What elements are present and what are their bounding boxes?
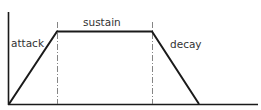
attack-label: attack — [11, 37, 45, 49]
envelope-diagram: attack sustain decay — [0, 0, 261, 110]
sustain-label: sustain — [83, 16, 121, 28]
decay-label: decay — [170, 38, 202, 50]
